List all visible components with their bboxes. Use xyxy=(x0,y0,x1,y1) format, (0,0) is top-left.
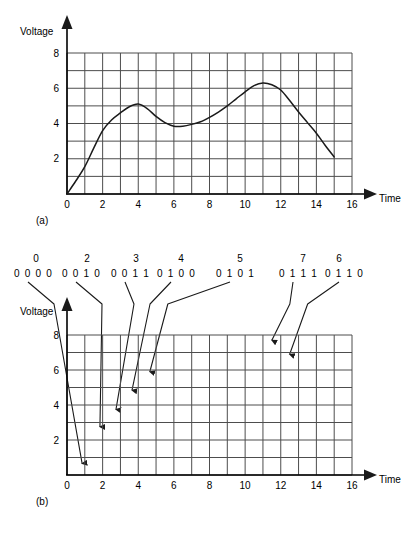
panel-a-x-tick-6: 6 xyxy=(171,199,177,210)
panel-b-caption: (b) xyxy=(36,496,48,507)
binary-code-0: 0 0 0 0 xyxy=(14,268,53,279)
panel-b-y-tick-2: 2 xyxy=(53,435,59,446)
binary-code-5: 0 1 1 1 xyxy=(279,268,318,279)
panel-a-y-tick-8: 8 xyxy=(53,48,59,59)
panel-a-x-tick-8: 8 xyxy=(207,199,213,210)
panel-b-chart: 0234576 0 0 0 00 0 1 00 0 1 10 1 0 00 1 … xyxy=(14,253,401,507)
panel-b-x-tick-labels: 0246810121416 xyxy=(64,480,358,491)
sample-leader-2 xyxy=(116,282,134,409)
decimal-code-2: 3 xyxy=(133,253,139,264)
panel-b-x-tick-6: 6 xyxy=(171,480,177,491)
panel-a-y-tick-4: 4 xyxy=(53,118,59,129)
panel-b-y-axis-arrow-icon xyxy=(62,297,73,311)
panel-a-caption: (a) xyxy=(36,215,48,226)
panel-a-x-tick-labels: 0246810121416 xyxy=(64,199,358,210)
panel-b-x-tick-14: 14 xyxy=(311,480,323,491)
panel-a-x-tick-4: 4 xyxy=(135,199,141,210)
panel-a-y-axis-label: Voltage xyxy=(20,26,54,37)
panel-a-chart: 0246810121416 2468 Voltage Time (a) xyxy=(20,15,401,226)
panel-a-x-tick-0: 0 xyxy=(64,199,70,210)
binary-code-6: 0 1 1 0 xyxy=(325,268,364,279)
panel-b-y-tick-4: 4 xyxy=(53,400,59,411)
binary-code-4: 0 1 0 1 xyxy=(216,268,255,279)
panel-a-x-axis-label: Time xyxy=(379,193,401,204)
signal-quantization-figure: 0246810121416 2468 Voltage Time (a) 0234… xyxy=(0,0,406,533)
panel-a-x-tick-12: 12 xyxy=(275,199,287,210)
panel-b-x-tick-16: 16 xyxy=(346,480,358,491)
panel-b-y-tick-8: 8 xyxy=(53,330,59,341)
panel-a-y-tick-2: 2 xyxy=(53,153,59,164)
panel-b-x-tick-4: 4 xyxy=(135,480,141,491)
sample-leader-6 xyxy=(290,282,339,354)
panel-a-x-tick-16: 16 xyxy=(346,199,358,210)
panel-b-decimal-codes: 0234576 xyxy=(33,253,342,264)
panel-a-x-tick-10: 10 xyxy=(240,199,252,210)
panel-a-grid-path xyxy=(67,53,352,194)
panel-a-gridlines xyxy=(67,53,352,194)
panel-b-x-axis-arrow-icon xyxy=(364,470,377,481)
panel-b-x-tick-10: 10 xyxy=(240,480,252,491)
panel-b-x-tick-8: 8 xyxy=(207,480,213,491)
binary-code-1: 0 0 1 0 xyxy=(62,268,101,279)
panel-b-y-tick-6: 6 xyxy=(53,365,59,376)
panel-b-y-tick-labels: 2468 xyxy=(53,330,59,446)
panel-a-x-tick-2: 2 xyxy=(100,199,106,210)
figure-canvas: 0246810121416 2468 Voltage Time (a) 0234… xyxy=(0,0,406,533)
sample-leader-4 xyxy=(150,282,230,372)
decimal-code-3: 4 xyxy=(178,253,184,264)
decimal-code-6: 6 xyxy=(336,253,342,264)
panel-a-x-tick-14: 14 xyxy=(311,199,323,210)
decimal-code-5: 7 xyxy=(300,253,306,264)
decimal-code-1: 2 xyxy=(84,253,90,264)
binary-code-3: 0 1 0 0 xyxy=(157,268,196,279)
panel-a-y-tick-labels: 2468 xyxy=(53,48,59,165)
sample-leader-5 xyxy=(272,282,293,340)
decimal-code-4: 5 xyxy=(237,253,243,264)
panel-b-x-tick-0: 0 xyxy=(64,480,70,491)
panel-a-y-axis-arrow-icon xyxy=(62,15,73,29)
panel-b-x-tick-2: 2 xyxy=(100,480,106,491)
panel-b-y-axis-label: Voltage xyxy=(20,306,54,317)
decimal-code-0: 0 xyxy=(33,253,39,264)
binary-code-2: 0 0 1 1 xyxy=(111,268,150,279)
panel-a-signal-curve xyxy=(67,83,334,194)
panel-b-sample-leader-lines xyxy=(28,282,339,464)
panel-b-grid-path xyxy=(67,335,352,475)
panel-b-x-axis-label: Time xyxy=(379,474,401,485)
panel-b-binary-codes: 0 0 0 00 0 1 00 0 1 10 1 0 00 1 0 10 1 1… xyxy=(14,268,364,279)
panel-a-x-axis-arrow-icon xyxy=(364,189,377,200)
panel-a-y-tick-6: 6 xyxy=(53,83,59,94)
panel-b-x-tick-12: 12 xyxy=(275,480,287,491)
panel-b-gridlines xyxy=(67,335,352,475)
